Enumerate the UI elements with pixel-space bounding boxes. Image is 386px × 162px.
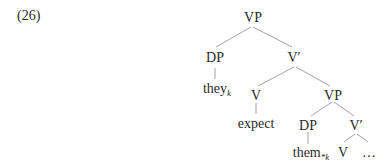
leaf-they: theyk: [203, 81, 231, 101]
node-vbar-lower: V′: [349, 118, 362, 134]
leaf-them-word: them: [293, 145, 321, 160]
node-vp-root: VP: [244, 10, 262, 26]
index-k: k: [227, 88, 231, 98]
index-star-k: *k: [321, 152, 330, 162]
node-v-lower: V: [338, 145, 348, 161]
node-dp-object: DP: [299, 118, 317, 134]
leaf-they-word: they: [203, 81, 227, 96]
tree-branches: [0, 0, 386, 162]
leaf-them: them*k: [293, 145, 330, 162]
node-dp-subject: DP: [206, 50, 224, 66]
node-vbar-top: V′: [287, 50, 300, 66]
node-vp-lower: VP: [324, 88, 342, 104]
leaf-ellipsis: …: [362, 145, 376, 161]
leaf-expect: expect: [238, 116, 275, 132]
node-v-head: V: [251, 88, 261, 104]
